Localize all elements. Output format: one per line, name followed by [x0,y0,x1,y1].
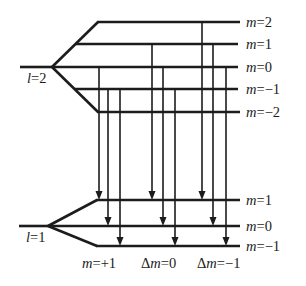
transitions-delta-m-0 [149,44,179,246]
lower-sublevel-label: m=−1 [246,238,280,254]
lower-fan-bottom-branch [48,226,97,246]
upper-level-label: l=2 [27,70,46,86]
transitions-delta-m-minus1 [199,22,230,246]
upper-level-group [20,22,240,112]
arrowhead-icon [210,217,217,226]
group-label-delta-m-minus1: Δm=−1 [197,255,240,271]
lower-fan-top-branch [48,200,97,226]
arrowhead-icon [223,237,230,246]
arrowhead-icon [172,237,179,246]
group-label-delta-m-plus1: m=+1 [82,255,116,271]
upper-sublevel-label: m=2 [246,14,272,30]
transitions-delta-m-plus1 [96,67,124,246]
arrowhead-icon [96,191,103,200]
lower-level-label: l=1 [26,229,45,245]
upper-sublevel-label: m=−2 [246,104,280,120]
lower-level-group [19,200,240,246]
lower-sublevel-label: m=1 [246,192,272,208]
arrowhead-icon [117,237,124,246]
upper-sublevel-label: m=−1 [246,81,280,97]
arrowhead-icon [105,217,112,226]
arrowhead-icon [149,191,156,200]
upper-sublevel-label: m=1 [246,36,272,52]
lower-sublevel-label: m=0 [246,218,272,234]
arrowhead-icon [160,217,167,226]
upper-sublevel-label: m=0 [246,59,272,75]
arrowhead-icon [199,191,206,200]
group-label-delta-m-0: Δm=0 [141,255,176,271]
zeeman-splitting-diagram: l=2 l=1 m=2 m=1 m=0 m=−1 m=−2 m=1 m=0 m=… [0,0,306,286]
